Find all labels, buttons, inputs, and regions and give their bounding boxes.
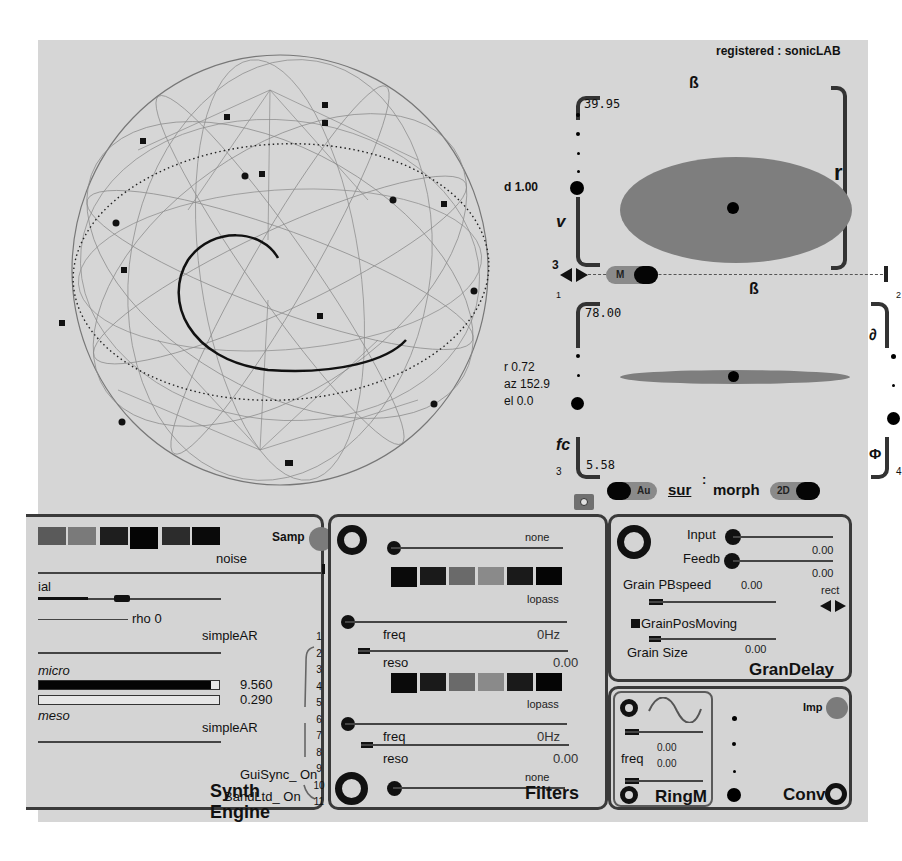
ringmod-input-ring-icon[interactable] — [620, 699, 638, 717]
mode-toggle[interactable]: M — [606, 266, 658, 284]
waveform-selector[interactable] — [38, 527, 228, 547]
dimension-toggle[interactable]: 2D — [770, 482, 820, 500]
ringmod-conv-panel: 0.00 freq 0.00 RingM Imp Conv — [608, 686, 852, 810]
filters-input-label: none — [525, 531, 549, 543]
samp-label: Samp — [272, 530, 305, 544]
partial-slider-handle[interactable] — [114, 595, 130, 602]
wave-swatch[interactable] — [130, 527, 158, 549]
partial-slider-fill — [38, 597, 88, 600]
filters-title: Filters — [525, 783, 579, 804]
channel-number[interactable]: 9 — [312, 761, 326, 778]
fc-slider-knob[interactable] — [571, 397, 584, 410]
v-label: v — [556, 212, 565, 232]
source-elevation-dot[interactable] — [728, 371, 739, 382]
filters-output-ring-icon[interactable] — [335, 772, 368, 805]
gd-pos-moving-checkbox[interactable] — [631, 619, 640, 628]
mode-toggle-label: M — [616, 269, 624, 280]
micro-slider[interactable] — [38, 680, 220, 690]
ringmod-output-ring-icon[interactable] — [620, 786, 638, 804]
slider-tick — [576, 113, 580, 117]
surround-link[interactable]: sur — [668, 481, 691, 498]
top-box-bracket-bl — [576, 197, 600, 267]
channel-number[interactable]: 1 — [312, 629, 326, 646]
conv-mix-knob[interactable] — [727, 788, 741, 802]
nav-arrows-icon[interactable] — [560, 268, 588, 282]
channel-number[interactable]: 7 — [312, 728, 326, 745]
wave-swatch[interactable] — [192, 527, 220, 545]
wave-swatch[interactable] — [100, 527, 128, 545]
meso-value: 0.290 — [240, 692, 273, 707]
distance-slider-knob[interactable] — [570, 181, 584, 195]
wave-swatch[interactable] — [162, 527, 190, 545]
filters-output-label: none — [525, 771, 549, 783]
noise-slider-track[interactable] — [38, 572, 323, 574]
gran-delay-ring-icon[interactable] — [617, 525, 651, 559]
phi-slider-knob[interactable] — [887, 412, 900, 425]
ringmod-freq1-track[interactable] — [625, 731, 703, 733]
ringmod-freq-label: freq — [621, 751, 643, 766]
gd-input-label: Input — [687, 527, 716, 542]
filter2-reso-track[interactable] — [361, 744, 569, 746]
wave-swatch[interactable] — [68, 527, 96, 545]
filter1-freq-track[interactable] — [345, 621, 567, 623]
auto-toggle[interactable]: Au — [607, 482, 657, 500]
channel-number[interactable]: 3 — [312, 662, 326, 679]
dimension-toggle-knob — [796, 482, 820, 500]
gd-size-label: Grain Size — [627, 645, 688, 660]
channel-number[interactable]: 6 — [312, 712, 326, 729]
sine-wave-icon[interactable] — [647, 697, 703, 723]
filter-swatch[interactable] — [449, 567, 475, 585]
source-position-dot[interactable] — [727, 202, 739, 214]
top-box-value: 39.95 — [584, 97, 620, 111]
filter-swatch[interactable] — [536, 567, 562, 585]
ringmod-freq-value-2: 0.00 — [657, 758, 676, 769]
filter-swatch[interactable] — [507, 567, 533, 585]
corner-number-4: 4 — [896, 466, 902, 477]
filter-swatch[interactable] — [536, 673, 562, 691]
filter-swatch[interactable] — [420, 567, 446, 585]
gd-window-arrows-icon[interactable] — [820, 600, 846, 612]
filter-swatch[interactable] — [449, 673, 475, 691]
filter1-reso-value: 0.00 — [553, 655, 578, 670]
wave-swatch[interactable] — [38, 527, 66, 545]
conv-output-ring-icon[interactable] — [825, 783, 847, 805]
channel-number[interactable]: 4 — [312, 679, 326, 696]
conv-slider-tick — [733, 770, 736, 773]
camera-icon[interactable] — [574, 494, 594, 510]
gd-input-track[interactable] — [733, 536, 833, 538]
filter-swatch[interactable] — [507, 673, 533, 691]
envelope1-track[interactable] — [38, 652, 221, 654]
micro-label: micro — [38, 663, 70, 678]
filter-swatch[interactable] — [420, 673, 446, 691]
corner-number-2: 2 — [896, 290, 901, 300]
meso-label: meso — [38, 708, 70, 723]
ringmod-freq2-track[interactable] — [625, 780, 703, 782]
filter2-type-selector[interactable] — [391, 673, 561, 693]
filter-swatch[interactable] — [391, 673, 417, 693]
meso-slider[interactable] — [38, 695, 220, 705]
rho-slider-track[interactable] — [38, 619, 128, 620]
gd-pbspeed-track[interactable] — [649, 601, 776, 603]
conv-slider-tick — [732, 742, 736, 746]
filter2-freq-value: 0Hz — [537, 729, 560, 744]
filter1-reso-track[interactable] — [358, 650, 568, 652]
channel-number[interactable]: 8 — [312, 745, 326, 762]
gd-feedback-track[interactable] — [733, 560, 833, 562]
noise-slider-handle[interactable] — [322, 564, 325, 574]
channel-number[interactable]: 5 — [312, 695, 326, 712]
envelope2-track[interactable] — [38, 741, 221, 743]
filters-input-ring-icon[interactable] — [337, 525, 367, 555]
hoa-sphere-view[interactable] — [38, 40, 518, 520]
filter-swatch[interactable] — [478, 567, 504, 585]
impulse-load-button[interactable] — [826, 697, 848, 719]
gran-delay-title: GranDelay — [749, 660, 834, 680]
filter1-type-selector[interactable] — [391, 567, 561, 587]
gd-size-track[interactable] — [649, 638, 776, 640]
filters-input-track[interactable] — [391, 547, 563, 549]
filter2-freq-track[interactable] — [345, 723, 567, 725]
filter-swatch[interactable] — [478, 673, 504, 691]
channel-number[interactable]: 2 — [312, 646, 326, 663]
app-window: registered : sonicLAB — [38, 40, 868, 822]
footer-separator: : — [702, 472, 706, 487]
filter-swatch[interactable] — [391, 567, 417, 587]
